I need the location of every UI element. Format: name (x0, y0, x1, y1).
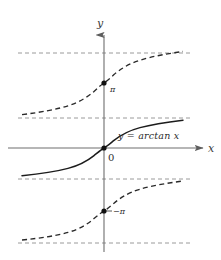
x-axis-label: x (208, 142, 215, 155)
curve-equation-label: y = arctan x (117, 130, 180, 141)
point-marker-origin (101, 145, 106, 150)
y-axis-label: y (96, 17, 104, 30)
branch-lower (22, 181, 183, 240)
arctan-plot: y x 0 π −π y = arctan x (0, 0, 221, 260)
point-marker-pi (101, 80, 106, 85)
origin-label: 0 (108, 152, 114, 163)
point-marker-negative-pi (101, 208, 106, 213)
axis-group (8, 35, 203, 252)
pi-label: π (109, 85, 116, 94)
arctan-figure: y x 0 π −π y = arctan x (0, 0, 221, 260)
negative-pi-label: −π (113, 207, 126, 216)
branch-upper (22, 51, 183, 114)
label-group: y x 0 π −π y = arctan x (96, 17, 215, 216)
